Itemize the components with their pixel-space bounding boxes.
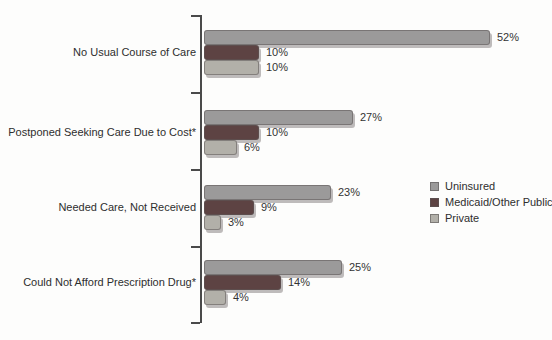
category-label: No Usual Course of Care [2,30,196,75]
value-label: 6% [244,140,260,155]
bar-private [204,60,259,75]
y-axis-line [200,15,202,323]
category-label: Postponed Seeking Care Due to Cost* [2,110,196,155]
value-label: 14% [288,275,310,290]
bar-private [204,140,237,155]
category-label: Could Not Afford Prescription Drug* [2,260,196,305]
axis-tick [191,92,200,94]
legend-item: Medicaid/Other Public [430,194,552,210]
value-label: 10% [266,60,288,75]
bar-private [204,215,221,230]
grouped-bar-chart: No Usual Course of Care52%10%10%Postpone… [0,0,552,340]
legend-label: Uninsured [445,180,495,192]
axis-tick [191,322,200,324]
axis-tick [191,15,200,17]
axis-tick [191,169,200,171]
bar-uninsured [204,110,353,125]
legend-item: Uninsured [430,178,552,194]
legend-label: Private [445,212,479,224]
value-label: 52% [497,30,519,45]
value-label: 25% [349,260,371,275]
bar-uninsured [204,260,342,275]
legend-swatch-icon [430,198,439,207]
legend-item: Private [430,210,552,226]
value-label: 3% [228,215,244,230]
bar-medicaid-other-public [204,125,259,140]
legend-swatch-icon [430,214,439,223]
category-label: Needed Care, Not Received [2,185,196,230]
bar-medicaid-other-public [204,45,259,60]
axis-tick [191,246,200,248]
legend-swatch-icon [430,182,439,191]
bar-private [204,290,226,305]
value-label: 10% [266,125,288,140]
value-label: 23% [338,185,360,200]
value-label: 27% [360,110,382,125]
legend: UninsuredMedicaid/Other PublicPrivate [430,178,552,226]
value-label: 10% [266,45,288,60]
legend-label: Medicaid/Other Public [445,196,552,208]
bar-uninsured [204,30,490,45]
bar-medicaid-other-public [204,200,254,215]
value-label: 4% [233,290,249,305]
value-label: 9% [261,200,277,215]
bar-uninsured [204,185,331,200]
bar-medicaid-other-public [204,275,281,290]
